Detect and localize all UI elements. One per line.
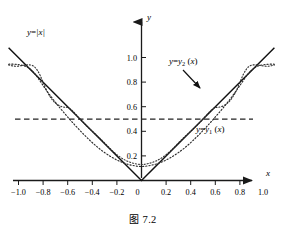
- x-tick-label: 0.4: [186, 188, 196, 197]
- plot-canvas: −1.0 −0.8 −0.6 −0.4 −0.2 0 0.2 0.4 0.6 0…: [0, 0, 286, 245]
- x-tick-label: −0.2: [109, 188, 124, 197]
- figure-container: −1.0 −0.8 −0.6 −0.4 −0.2 0 0.2 0.4 0.6 0…: [0, 0, 286, 245]
- x-tick-label: −0.6: [60, 188, 75, 197]
- y2-curve-label: y=y2 (x): [168, 56, 198, 67]
- x-tick-label: −0.8: [36, 188, 51, 197]
- x-axis-name-label: x: [265, 168, 270, 178]
- y-tick-label: 1.0: [127, 54, 137, 63]
- y-tick-label: 0.6: [127, 103, 137, 112]
- x-axis-tick-labels: −1.0 −0.8 −0.6 −0.4 −0.2 0 0.2 0.4 0.6 0…: [11, 188, 268, 197]
- x-tick-label: −1.0: [11, 188, 26, 197]
- y-axis-ticks: [142, 58, 147, 156]
- x-tick-label: 0.6: [210, 188, 220, 197]
- x-tick-label: 0.2: [161, 188, 171, 197]
- y-axis-tick-labels: 0.2 0.4 0.6 0.8 1.0: [127, 54, 137, 161]
- x-tick-label: −0.4: [85, 188, 100, 197]
- y-tick-label: 0.8: [127, 78, 137, 87]
- caption-prefix: 图: [129, 214, 139, 225]
- x-tick-label: 0: [135, 188, 139, 197]
- y-tick-label: 0.4: [127, 127, 137, 136]
- caption-number: 7.2: [143, 214, 157, 225]
- y-tick-label: 0.2: [127, 152, 137, 161]
- y-axis-name-label: y: [146, 12, 151, 22]
- y2-label-arrow: [183, 70, 200, 88]
- figure-caption: 图 7.2: [0, 211, 286, 226]
- abs-curve-label: y=|x|: [26, 27, 45, 37]
- x-tick-label: 1.0: [258, 188, 268, 197]
- x-axis-ticks: [19, 181, 240, 186]
- x-tick-label: 0.8: [235, 188, 245, 197]
- y1-curve-label: y=y1 (x): [195, 124, 225, 135]
